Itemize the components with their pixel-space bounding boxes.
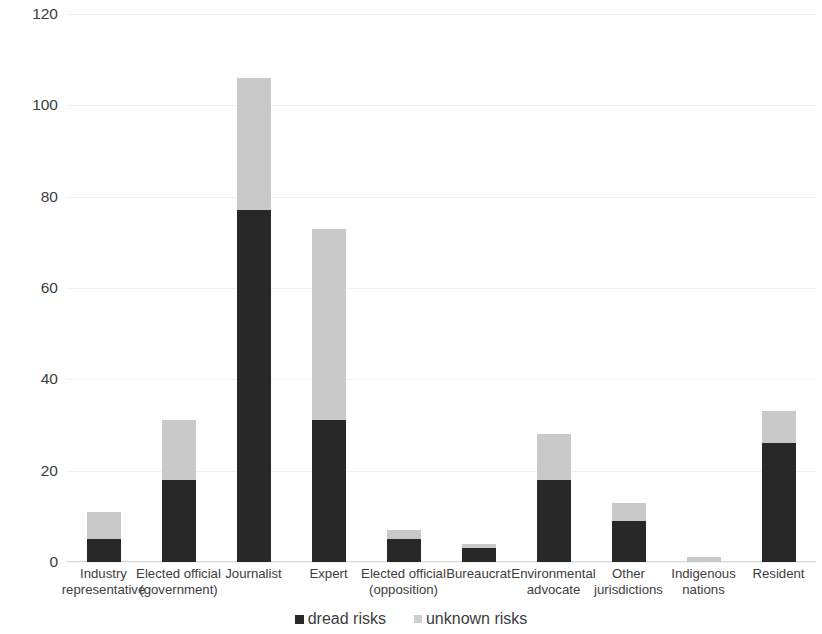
y-axis-tick-label: 40 [18, 370, 58, 388]
x-axis-tick-label-line: Resident [731, 566, 822, 582]
y-axis-tick-label: 0 [18, 553, 58, 571]
plot-area [66, 14, 816, 562]
bar-stack[interactable] [762, 411, 796, 562]
bar-stack[interactable] [237, 78, 271, 562]
bar-segment-unknown-risks[interactable] [537, 434, 571, 480]
bar-segment-dread-risks[interactable] [387, 539, 421, 562]
bar-stack[interactable] [612, 503, 646, 562]
gridline [66, 288, 816, 289]
bar-segment-unknown-risks[interactable] [312, 229, 346, 421]
bar-stack[interactable] [87, 512, 121, 562]
bar-stack[interactable] [462, 544, 496, 562]
gridline [66, 379, 816, 380]
legend-item[interactable]: unknown risks [414, 610, 527, 628]
legend-item[interactable]: dread risks [295, 610, 386, 628]
bar-stack[interactable] [537, 434, 571, 562]
bar-segment-dread-risks[interactable] [237, 210, 271, 562]
gridline [66, 197, 816, 198]
legend-item-label: unknown risks [426, 610, 527, 628]
gridline [66, 105, 816, 106]
x-axis-tick-label-line: (opposition) [356, 582, 452, 598]
bar-stack[interactable] [687, 557, 721, 562]
bar-segment-dread-risks[interactable] [762, 443, 796, 562]
chart-figure: Number of coded references in the Chroni… [0, 0, 822, 634]
bar-segment-dread-risks[interactable] [462, 548, 496, 562]
bar-segment-unknown-risks[interactable] [237, 78, 271, 210]
gridline [66, 14, 816, 15]
bar-segment-unknown-risks[interactable] [387, 530, 421, 539]
legend-swatch-unknown-risks-icon [414, 615, 422, 623]
y-axis-tick-labels: 020406080100120 [12, 14, 58, 562]
y-axis-tick-label: 80 [18, 188, 58, 206]
x-axis-tick-label-line: nations [656, 582, 752, 598]
x-axis-tick-label: Resident [731, 566, 822, 582]
y-axis-tick-label: 20 [18, 462, 58, 480]
bar-segment-unknown-risks[interactable] [687, 557, 721, 562]
bar-segment-dread-risks[interactable] [87, 539, 121, 562]
y-axis-tick-label: 100 [18, 96, 58, 114]
bar-stack[interactable] [162, 420, 196, 562]
bar-segment-dread-risks[interactable] [312, 420, 346, 562]
bar-segment-unknown-risks[interactable] [612, 503, 646, 521]
bar-segment-unknown-risks[interactable] [762, 411, 796, 443]
y-axis-tick-label: 60 [18, 279, 58, 297]
legend-item-label: dread risks [308, 610, 386, 628]
gridline [66, 562, 816, 563]
bar-stack[interactable] [312, 229, 346, 562]
bar-segment-unknown-risks[interactable] [162, 420, 196, 479]
chart-legend: dread risksunknown risks [0, 610, 822, 628]
bar-segment-dread-risks[interactable] [162, 480, 196, 562]
bar-segment-dread-risks[interactable] [537, 480, 571, 562]
legend-swatch-dread-risks-icon [295, 615, 304, 624]
bar-segment-unknown-risks[interactable] [87, 512, 121, 539]
bar-stack[interactable] [387, 530, 421, 562]
bar-segment-dread-risks[interactable] [612, 521, 646, 562]
x-axis-tick-labels: IndustryrepresentativeElected official(g… [66, 566, 816, 608]
y-axis-tick-label: 120 [18, 5, 58, 23]
x-axis-tick-label-line: (government) [131, 582, 227, 598]
